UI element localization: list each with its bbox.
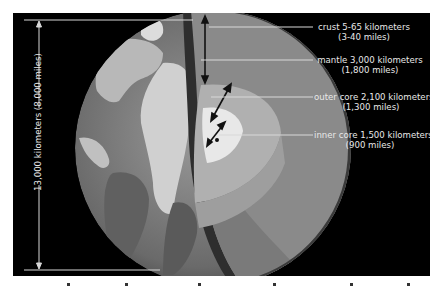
- diameter-label: 13,000 kilometers (8,000 miles): [33, 91, 43, 191]
- label-outer-core: outer core 2,100 kilometers (1,300 miles…: [314, 92, 428, 112]
- cropped-caption-remnant: [0, 283, 443, 288]
- inner-core-miles: (900 miles): [314, 140, 426, 150]
- mantle-km: mantle 3,000 kilometers: [317, 55, 423, 65]
- label-inner-core: inner core 1,500 kilometers (900 miles): [314, 130, 426, 150]
- outer-core-km: outer core 2,100 kilometers: [314, 92, 430, 102]
- label-mantle: mantle 3,000 kilometers (1,800 miles): [314, 55, 426, 75]
- inner-core-km: inner core 1,500 kilometers: [314, 130, 430, 140]
- outer-core-miles: (1,300 miles): [314, 102, 428, 112]
- crust-miles: (3-40 miles): [314, 32, 414, 42]
- diagram-panel: 13,000 kilometers (8,000 miles) crust 5-…: [13, 13, 430, 276]
- mantle-miles: (1,800 miles): [314, 65, 426, 75]
- diameter-km: 13,000 kilometers: [33, 113, 43, 191]
- diameter-miles: (8,000 miles): [33, 53, 43, 110]
- land-greenland: [141, 18, 163, 40]
- label-crust: crust 5-65 kilometers (3-40 miles): [314, 22, 414, 42]
- crust-km: crust 5-65 kilometers: [318, 22, 410, 32]
